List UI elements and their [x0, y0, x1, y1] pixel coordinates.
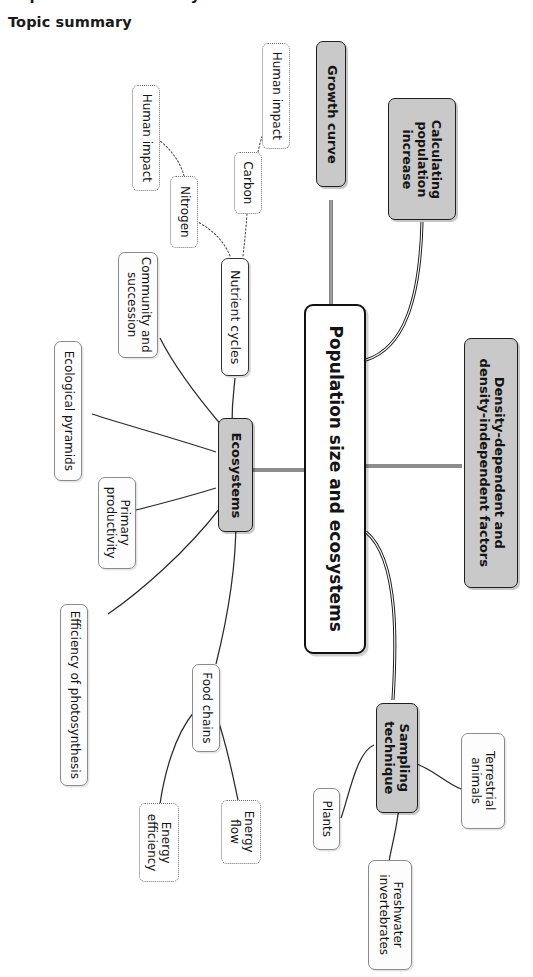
edge-center-calculating	[366, 222, 422, 360]
node-density-dependent-and-independent-factors[interactable]: Density-dependent and density-independen…	[464, 338, 518, 588]
node-carbon[interactable]: Carbon	[234, 152, 262, 214]
node-nitrogen-label: Nitrogen	[177, 186, 191, 238]
node-sampling-technique[interactable]: Sampling technique	[376, 703, 418, 813]
node-human-impact-carbon[interactable]: Human impact	[262, 43, 290, 149]
node-energy-efficiency-label: Energy efficiency	[145, 814, 172, 872]
node-energy-flow-label: Energy flow	[227, 811, 254, 853]
node-nutrient-cycles[interactable]: Nutrient cycles	[221, 258, 249, 376]
node-sampling-technique-label: Sampling technique	[382, 721, 412, 794]
node-human-impact-carbon-label: Human impact	[269, 52, 283, 140]
node-community-and-succession-label: Community and succession	[124, 257, 151, 353]
node-density-factors-label: Density-dependent and density-independen…	[476, 359, 506, 567]
node-terrestrial-animals-label: Terrestrial animals	[469, 751, 496, 810]
node-plants[interactable]: Plants	[313, 788, 340, 850]
node-nitrogen[interactable]: Nitrogen	[170, 176, 198, 248]
edge-foodchains-energy-efficiency	[160, 712, 194, 804]
node-energy-flow[interactable]: Energy flow	[221, 800, 261, 864]
node-ecological-pyramids-label: Ecological pyramids	[61, 351, 75, 471]
edge-ecosystems-pyramids	[92, 414, 216, 452]
edge-center-sampling	[366, 532, 395, 700]
edge-nutrient-nitrogen	[194, 220, 230, 256]
center-node-label: Population size and ecosystems	[325, 326, 344, 632]
edge-ecosystems-community	[160, 338, 222, 426]
node-energy-efficiency[interactable]: Energy efficiency	[139, 803, 179, 882]
edge-sampling-terrestrial	[411, 762, 461, 789]
node-nutrient-cycles-label: Nutrient cycles	[228, 270, 242, 364]
node-freshwater-invertebrates-label: Freshwater invertebrates	[376, 875, 403, 956]
node-food-chains[interactable]: Food chains	[192, 664, 220, 752]
node-freshwater-invertebrates[interactable]: Freshwater invertebrates	[368, 860, 412, 970]
node-growth-curve[interactable]: Growth curve	[316, 41, 346, 187]
edge-ecosystems-primary	[136, 488, 216, 510]
edge-nutrient-carbon	[243, 214, 247, 256]
node-human-impact-nitrogen-label: Human impact	[139, 94, 153, 182]
node-efficiency-of-photosynthesis[interactable]: Efficiency of photosynthesis	[60, 604, 88, 786]
node-calculating-population-increase-label: Calculating population increase	[401, 119, 444, 198]
node-ecological-pyramids[interactable]: Ecological pyramids	[54, 341, 82, 481]
node-primary-productivity-label: Primary productivity	[103, 487, 130, 559]
node-efficiency-of-photosynthesis-label: Efficiency of photosynthesis	[67, 611, 81, 779]
node-ecosystems-label: Ecosystems	[228, 432, 243, 518]
node-calculating-population-increase[interactable]: Calculating population increase	[388, 98, 456, 220]
node-terrestrial-animals[interactable]: Terrestrial animals	[461, 733, 505, 829]
node-ecosystems[interactable]: Ecosystems	[218, 418, 253, 532]
node-primary-productivity[interactable]: Primary productivity	[98, 477, 136, 569]
node-plants-label: Plants	[320, 801, 334, 838]
node-carbon-label: Carbon	[241, 161, 255, 204]
edge-sampling-plants	[341, 745, 374, 818]
edge-nitrogen-human-impact	[156, 138, 184, 176]
edge-ecosystems-foodchains	[216, 520, 236, 664]
node-growth-curve-label: Growth curve	[324, 65, 339, 164]
mind-map-page: Populations and ecosystems Topic summary	[0, 0, 533, 977]
node-human-impact-nitrogen[interactable]: Human impact	[132, 85, 160, 191]
node-food-chains-label: Food chains	[199, 672, 213, 743]
node-community-and-succession[interactable]: Community and succession	[118, 252, 158, 358]
center-node-population-size-and-ecosystems[interactable]: Population size and ecosystems	[304, 304, 366, 654]
